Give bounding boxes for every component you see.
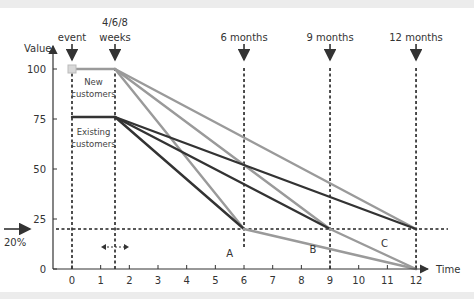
series-line [115, 69, 416, 229]
x-axis-label: Time [435, 264, 460, 275]
y-tick-label: 75 [33, 114, 46, 125]
region-label: A [226, 248, 233, 259]
y-axis-label: Value [24, 43, 51, 54]
marker-label: event [58, 32, 87, 43]
x-tick-label: 4 [183, 275, 189, 286]
y-tick-label: 0 [40, 264, 46, 275]
group-label: Existing [77, 127, 111, 137]
data-series [68, 65, 416, 269]
series-line [115, 117, 416, 229]
range-arrow-right-icon [124, 244, 129, 250]
marker-label: 12 months [389, 32, 443, 43]
axes [4, 44, 428, 269]
x-tick-label: 9 [327, 275, 333, 286]
range-arrow-left-icon [101, 244, 106, 250]
x-tick-label: 3 [155, 275, 161, 286]
x-tick-label: 6 [241, 275, 247, 286]
series-line [115, 117, 330, 229]
x-tick-label: 8 [298, 275, 304, 286]
threshold-label: 20% [4, 237, 26, 248]
marker-label: 4/6/8 [102, 17, 128, 28]
series-line [115, 69, 330, 229]
y-tick-label: 25 [33, 214, 46, 225]
x-tick-label: 0 [69, 275, 75, 286]
start-marker [68, 65, 76, 73]
x-tick-label: 11 [381, 275, 394, 286]
region-label: C [381, 238, 388, 249]
region-label: B [309, 244, 316, 255]
series-line [330, 229, 416, 269]
marker-label: 6 months [220, 32, 267, 43]
x-tick-label: 12 [410, 275, 423, 286]
chart: 01234567891011120255075100TimeValue20%ev… [0, 0, 474, 299]
x-tick-label: 7 [270, 275, 276, 286]
x-tick-label: 10 [352, 275, 365, 286]
marker-label: weeks [99, 32, 130, 43]
x-tick-label: 5 [212, 275, 218, 286]
y-tick-label: 50 [33, 164, 46, 175]
x-tick-label: 2 [126, 275, 132, 286]
group-label: New [84, 77, 103, 87]
marker-label: 9 months [306, 32, 353, 43]
series-line [115, 69, 244, 229]
x-tick-label: 1 [97, 275, 103, 286]
group-label: customers [71, 89, 116, 99]
group-label: customers [71, 139, 116, 149]
y-tick-label: 100 [27, 64, 46, 75]
